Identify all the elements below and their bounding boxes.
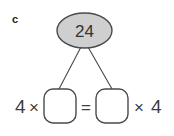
left-multiply-sign: × [29, 98, 39, 117]
equals-sign: = [81, 98, 91, 117]
right-branch-line [88, 47, 112, 89]
right-factor: 4 [151, 96, 162, 117]
left-answer-box[interactable] [44, 89, 76, 123]
number-bond-diagram: 24 4 × = × 4 [0, 0, 174, 136]
left-factor: 4 [15, 96, 26, 117]
right-answer-box[interactable] [96, 89, 128, 123]
connector-lines [59, 47, 112, 89]
right-multiply-sign: × [134, 98, 144, 117]
bubble-value: 24 [75, 22, 94, 41]
left-branch-line [59, 47, 81, 89]
equation-row: 4 × = × 4 [15, 89, 162, 123]
worksheet-figure: c 24 4 × = × 4 [0, 0, 174, 136]
total-bubble: 24 [57, 13, 112, 48]
